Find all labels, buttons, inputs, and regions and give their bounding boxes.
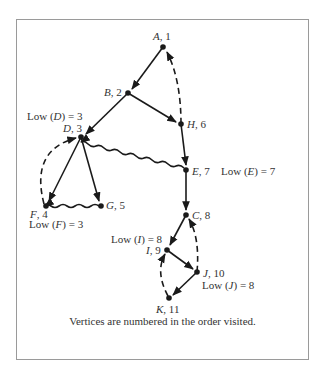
low-label-E: Low (E) = 7 [221,165,275,177]
node-label-K: K, 11 [156,303,179,315]
tree-edge-B-D [86,93,128,134]
back-edge-J-C [189,219,198,272]
low-label-J: Low (J) = 8 [202,279,254,291]
node-E [183,167,189,173]
node-G [98,203,104,209]
tree-edge-J-K [173,272,197,295]
cross-edge-E-D [81,141,184,168]
node-D [78,134,84,140]
tree-edge-C-I [170,215,186,245]
node-label-C: C, 8 [192,209,210,221]
tree-edge-B-H [128,93,176,122]
tree-edge-D-F [49,137,81,201]
node-label-G: G, 5 [106,199,125,211]
node-label-E: E, 7 [192,165,210,177]
node-label-I: I, 9 [146,244,161,256]
node-B [125,90,131,96]
figure-caption: Vertices are numbered in the order visit… [0,315,325,327]
cross-edge-G-F [45,205,99,208]
back-edge-H-A [167,52,181,124]
node-label-H: H, 6 [187,118,206,130]
tree-edge-I-J [167,250,193,269]
node-label-J: J, 10 [203,267,224,279]
tree-edge-A-B [132,47,163,89]
node-label-B: B, 2 [104,86,122,98]
low-label-I: Low (I) = 8 [111,233,162,245]
back-edge-F-D [41,138,76,204]
back-edge-K-I [161,254,168,296]
node-C [183,212,189,218]
low-label-F: Low (F) = 3 [29,218,83,230]
node-I [164,247,170,253]
tree-edge-H-E [181,124,186,165]
node-A [160,44,166,50]
node-label-D: D, 3 [63,122,82,134]
node-J [194,269,200,275]
node-H [178,121,184,127]
node-K [166,295,172,301]
low-label-D: Low (D) = 3 [27,110,82,122]
node-label-A: A, 1 [153,30,171,42]
